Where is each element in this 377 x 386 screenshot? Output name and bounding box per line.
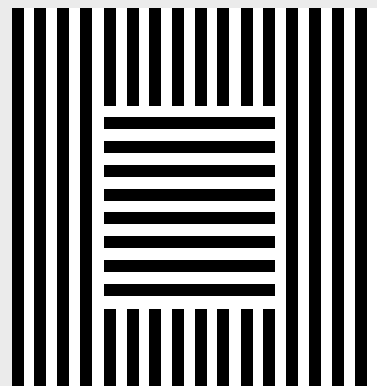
horizontal-bar — [104, 117, 275, 129]
vertical-stripe-top — [263, 8, 275, 106]
illusion-canvas — [0, 0, 377, 386]
vertical-stripe-bottom — [127, 309, 139, 386]
vertical-stripe-bottom — [241, 309, 253, 386]
horizontal-bar — [104, 284, 275, 296]
vertical-stripe — [286, 8, 298, 386]
vertical-stripe-bottom — [217, 309, 229, 386]
vertical-stripe-top — [241, 8, 253, 106]
vertical-stripe-bottom — [149, 309, 161, 386]
vertical-stripe — [355, 8, 367, 386]
horizontal-bar — [104, 189, 275, 201]
vertical-stripe — [80, 8, 92, 386]
vertical-stripe-top — [104, 8, 116, 106]
vertical-stripe-bottom — [195, 309, 207, 386]
horizontal-bar — [104, 236, 275, 248]
vertical-stripe — [34, 8, 46, 386]
horizontal-bar — [104, 165, 275, 177]
horizontal-bar — [104, 141, 275, 153]
vertical-stripe — [12, 8, 24, 386]
vertical-stripe-top — [127, 8, 139, 106]
vertical-stripe-top — [149, 8, 161, 106]
vertical-stripe-bottom — [172, 309, 184, 386]
horizontal-bar — [104, 212, 275, 224]
vertical-stripe — [332, 8, 344, 386]
vertical-stripe — [309, 8, 321, 386]
vertical-stripe-top — [217, 8, 229, 106]
vertical-stripe-top — [195, 8, 207, 106]
vertical-stripe-bottom — [263, 309, 275, 386]
vertical-stripe — [57, 8, 69, 386]
vertical-stripe-top — [172, 8, 184, 106]
vertical-stripe-bottom — [104, 309, 116, 386]
horizontal-bar — [104, 260, 275, 272]
